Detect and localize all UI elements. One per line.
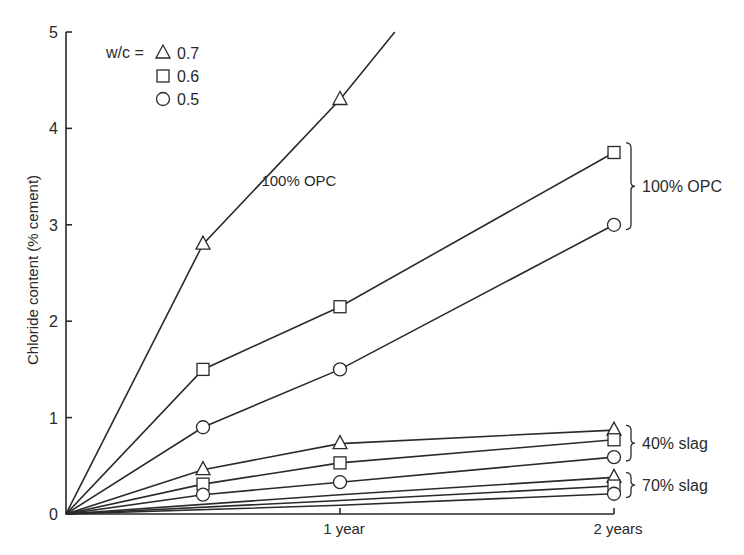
chart-legend: w/c =0.70.60.5 [105, 44, 199, 108]
y-tick-label: 2 [49, 313, 58, 330]
x-tick-label: 2 years [593, 520, 642, 537]
legend-triangle-icon [156, 45, 170, 58]
chart-annotations: 100% OPC100% OPC40% slag70% slag [261, 143, 722, 498]
triangle-marker [333, 436, 347, 449]
chloride-content-chart: 0123451 year2 years 100% OPC100% OPC40% … [0, 0, 744, 555]
circle-marker [197, 488, 210, 501]
legend-circle-icon [157, 93, 170, 106]
legend-label: 0.7 [177, 45, 199, 62]
x-tick-label: 1 year [323, 520, 365, 537]
legend-square-icon [157, 70, 169, 82]
circle-marker [334, 476, 347, 489]
y-tick-label: 4 [49, 120, 58, 137]
circle-marker [608, 218, 621, 231]
square-marker [197, 363, 209, 375]
y-tick-label: 3 [49, 217, 58, 234]
square-marker [608, 147, 620, 159]
brace [626, 143, 635, 230]
legend-prefix: w/c = [105, 44, 144, 61]
circle-marker [608, 451, 621, 464]
group-label: 100% OPC [261, 172, 336, 189]
brace [626, 473, 635, 498]
y-tick-label: 0 [49, 506, 58, 523]
group-label: 40% slag [642, 435, 708, 452]
square-marker [334, 457, 346, 469]
legend-label: 0.5 [177, 91, 199, 108]
y-tick-label: 1 [49, 410, 58, 427]
brace [626, 425, 635, 461]
circle-marker [608, 487, 621, 500]
y-axis-label: Chloride content (% cement) [24, 175, 41, 365]
circle-marker [334, 363, 347, 376]
group-label: 100% OPC [642, 178, 722, 195]
square-marker [608, 434, 620, 446]
legend-label: 0.6 [177, 68, 199, 85]
square-marker [334, 301, 346, 313]
circle-marker [197, 421, 210, 434]
group-label: 70% slag [642, 477, 708, 494]
y-tick-label: 5 [49, 24, 58, 41]
